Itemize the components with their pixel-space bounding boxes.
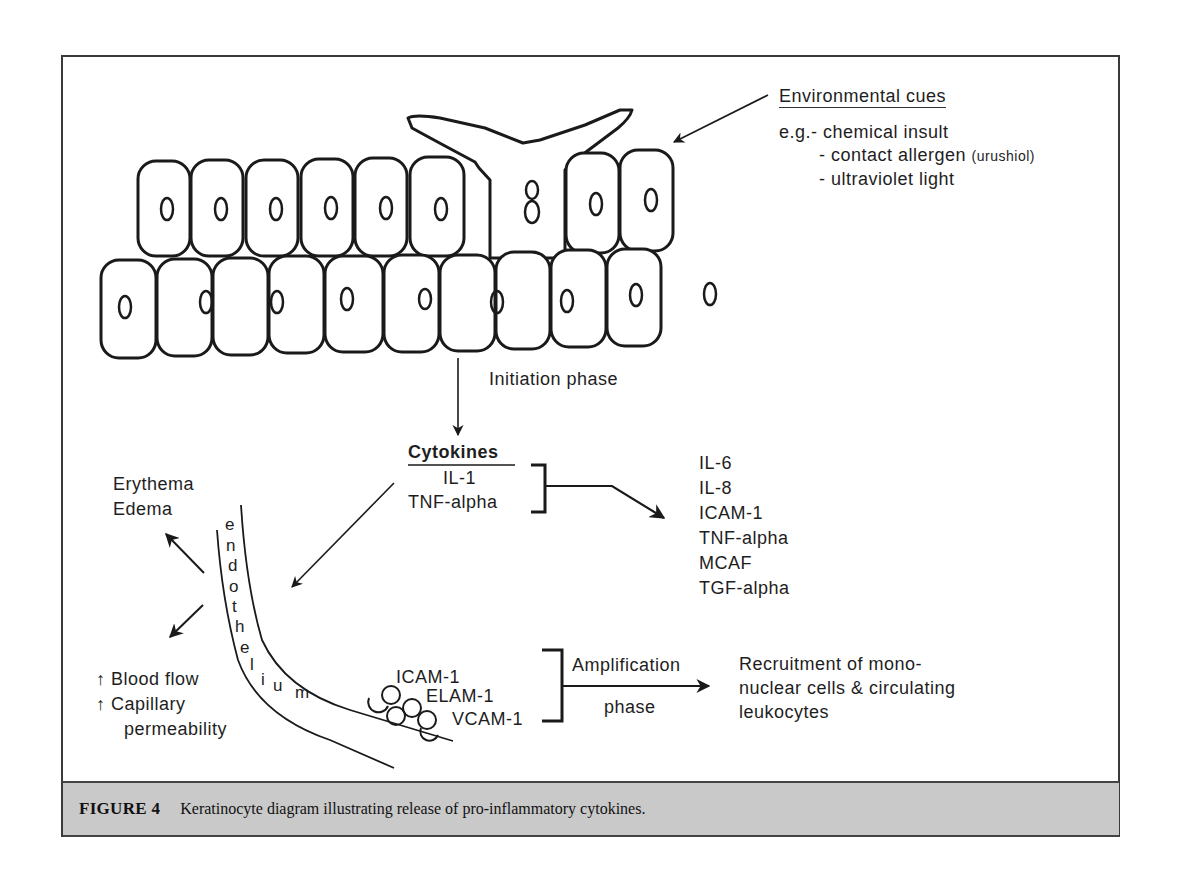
endothelium-letter: o bbox=[229, 577, 238, 597]
environmental-cue-3: - ultraviolet light bbox=[819, 169, 955, 189]
cytokine-to-mediators-arrow bbox=[545, 486, 664, 518]
amplification-label-line2: phase bbox=[604, 697, 656, 717]
cytokine-il-1: IL-1 bbox=[443, 468, 476, 488]
outcome-line-1: Recruitment of mono- bbox=[739, 654, 922, 674]
cytokine-tnf-alpha: TNF-alpha bbox=[408, 492, 498, 512]
blood-flow-text: Blood flow bbox=[111, 669, 199, 689]
keratinocyte-diagram bbox=[0, 0, 1181, 889]
endothelium-vessel bbox=[217, 505, 453, 768]
environmental-cues-title-text: Environmental cues bbox=[779, 86, 946, 108]
cytokines-title: Cytokines bbox=[408, 442, 499, 462]
figure-number: FIGURE 4 bbox=[79, 799, 160, 819]
effect-blood-flow: ↑ Blood flow bbox=[96, 669, 199, 689]
endothelium-letter: e bbox=[240, 638, 249, 658]
effect-edema: Edema bbox=[113, 499, 173, 519]
eg-prefix: e.g. bbox=[779, 122, 811, 142]
mediator-il-8: IL-8 bbox=[699, 478, 732, 498]
endothelium-letter: e bbox=[225, 515, 234, 535]
initiation-phase-label: Initiation phase bbox=[489, 369, 618, 389]
endothelium-letter: i bbox=[261, 670, 265, 690]
endothelium-letter: h bbox=[235, 617, 244, 637]
endothelium-letter: d bbox=[228, 556, 237, 576]
cytokine-to-endothelium-arrow bbox=[292, 483, 394, 587]
endothelium-letter: t bbox=[232, 597, 237, 617]
cue-contact-allergen: - contact allergen bbox=[819, 145, 966, 165]
amplification-label-line1: Amplification bbox=[572, 655, 681, 675]
endothelium-letter: l bbox=[250, 655, 254, 675]
adhesion-vcam-1: VCAM-1 bbox=[452, 709, 523, 729]
up-arrow-icon: ↑ bbox=[96, 694, 106, 714]
environmental-cues-title: Environmental cues bbox=[779, 86, 946, 106]
mediator-icam-1: ICAM-1 bbox=[699, 503, 763, 523]
environmental-cue-1: e.g.- chemical insult bbox=[779, 122, 949, 142]
mediator-tgf-alpha: TGF-alpha bbox=[699, 578, 790, 598]
erythema-arrow bbox=[166, 534, 204, 573]
endothelium-letter: u bbox=[273, 676, 282, 696]
adhesion-elam-1: ELAM-1 bbox=[426, 686, 494, 706]
up-arrow-icon: ↑ bbox=[96, 669, 106, 689]
cue-chemical-insult: - chemical insult bbox=[811, 122, 949, 142]
effect-capillary: ↑ Capillary bbox=[96, 694, 186, 714]
amplification-bracket bbox=[542, 650, 562, 721]
cue-ultraviolet-light: - ultraviolet light bbox=[819, 169, 955, 189]
effect-erythema: Erythema bbox=[113, 474, 194, 494]
adhesion-icam-1: ICAM-1 bbox=[396, 667, 460, 687]
cytokine-bracket bbox=[531, 465, 545, 512]
blood-flow-arrow bbox=[170, 605, 203, 637]
figure-caption-text: Keratinocyte diagram illustrating releas… bbox=[180, 800, 645, 818]
lower-keratinocyte-row bbox=[101, 249, 661, 358]
outcome-line-3: leukocytes bbox=[739, 702, 829, 722]
endothelium-letter: m bbox=[295, 683, 309, 703]
outcome-line-2: nuclear cells & circulating bbox=[739, 678, 956, 698]
endothelium-letter: n bbox=[226, 536, 235, 556]
effect-permeability: permeability bbox=[124, 719, 227, 739]
dendritic-cell-nucleus bbox=[525, 181, 539, 223]
environmental-cue-2: - contact allergen (urushiol) bbox=[819, 145, 1035, 166]
cue-urushiol-note: (urushiol) bbox=[972, 148, 1035, 164]
mediator-tnf-alpha: TNF-alpha bbox=[699, 528, 789, 548]
figure-caption: FIGURE 4 Keratinocyte diagram illustrati… bbox=[63, 781, 1119, 837]
mediator-il-6: IL-6 bbox=[699, 453, 732, 473]
capillary-text: Capillary bbox=[111, 694, 186, 714]
upper-keratinocyte-row bbox=[138, 150, 673, 256]
mediator-mcaf: MCAF bbox=[699, 553, 752, 573]
environmental-cues-arrow bbox=[674, 95, 768, 142]
